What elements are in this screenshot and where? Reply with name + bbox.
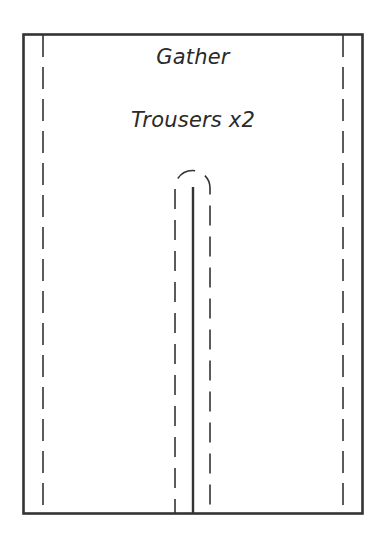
gather-instruction-label: Gather (23, 45, 363, 69)
trousers-pattern-piece (0, 0, 382, 535)
piece-name-label: Trousers x2 (23, 108, 363, 132)
